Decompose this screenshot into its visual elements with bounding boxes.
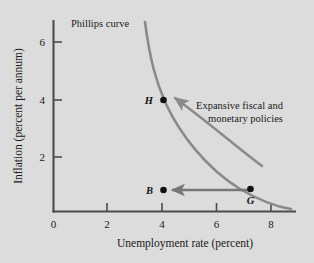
phillips-curve-figure: 6 4 2 0 2 4 6 8 Unemployment rate (perce… — [0, 0, 314, 263]
y-tick-label-2: 2 — [40, 151, 46, 163]
x-tick-label-4: 4 — [159, 218, 165, 230]
phillips-curve-label: Phillips curve — [71, 18, 129, 29]
x-axis-title: Unemployment rate (percent) — [117, 237, 253, 250]
point-H-label: H — [144, 95, 154, 106]
policy-annotation-line-2: monetary policies — [208, 113, 283, 124]
chart-canvas: 6 4 2 0 2 4 6 8 Unemployment rate (perce… — [0, 0, 314, 263]
y-axis-ticks: 6 4 2 — [40, 36, 63, 163]
x-tick-label-2: 2 — [104, 218, 110, 230]
x-tick-label-8: 8 — [268, 218, 274, 230]
point-G-marker — [247, 186, 254, 193]
x-tick-label-6: 6 — [214, 218, 220, 230]
x-tick-label-0: 0 — [51, 218, 57, 230]
point-B-label: B — [145, 185, 153, 196]
y-tick-label-6: 6 — [40, 36, 46, 48]
point-B-marker — [160, 187, 167, 194]
policy-annotation-line-1: Expansive fiscal and — [196, 100, 284, 111]
policy-annotation: Expansive fiscal and monetary policies — [196, 100, 284, 124]
y-axis-title: Inflation (percent per annum) — [12, 48, 25, 184]
point-H-marker — [160, 97, 167, 104]
point-G-label: G — [247, 195, 255, 206]
y-tick-label-4: 4 — [40, 94, 46, 106]
x-axis-ticks: 0 2 4 6 8 — [51, 203, 275, 230]
